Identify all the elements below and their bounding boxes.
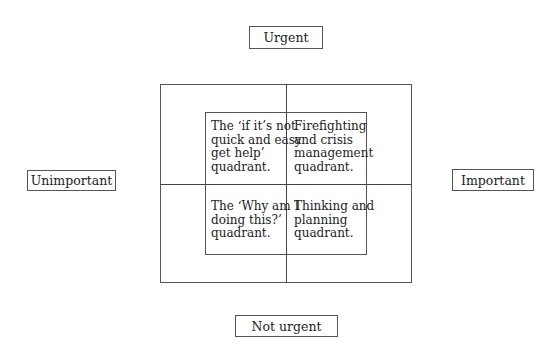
horizontal-divider bbox=[160, 184, 412, 185]
urgent-label: Urgent bbox=[249, 26, 323, 49]
not-urgent-label: Not urgent bbox=[235, 315, 338, 337]
quadrant-top-right: Firefighting and crisis management quadr… bbox=[294, 120, 373, 174]
quadrant-top-left: The ‘if it’s not quick and easy get help… bbox=[211, 120, 302, 174]
important-label: Important bbox=[452, 169, 534, 191]
unimportant-label: Unimportant bbox=[27, 170, 116, 191]
quadrant-bottom-right: Thinking and planning quadrant. bbox=[294, 200, 374, 241]
quadrant-bottom-left: The ‘Why am I doing this?’ quadrant. bbox=[211, 200, 299, 241]
